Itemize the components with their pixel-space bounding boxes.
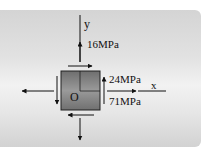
sigma-x-label: 71MPa	[109, 95, 141, 107]
stress-element-square	[61, 71, 100, 110]
tau-xy-label: 24MPa	[109, 73, 141, 85]
stress-element-diagram: y 16MPa 24MPa 71MPa x O	[0, 0, 216, 157]
y-axis-label: y	[84, 17, 90, 31]
origin-label: O	[70, 90, 79, 104]
x-axis-label: x	[151, 79, 157, 91]
sigma-y-label: 16MPa	[87, 38, 119, 50]
